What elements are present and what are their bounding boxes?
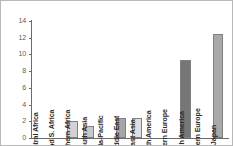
y-axis-tick-label: 4: [22, 100, 26, 109]
bar-slot[interactable]: South Asia: [81, 21, 97, 138]
bar-slot[interactable]: North America: [178, 21, 194, 138]
bar-category-label: Northern Africa: [64, 110, 72, 146]
bar-series: Central AfricaE. and S. AfricaNorthern A…: [32, 21, 226, 138]
bar-chart-figure: 02468101214 Central AfricaE. and S. Afri…: [0, 0, 233, 146]
bar-slot[interactable]: Middle East: [113, 21, 129, 138]
bar-category-label: Western Europe: [194, 108, 202, 146]
y-axis-tick-label: 0: [22, 133, 26, 142]
y-axis-tick-label: 10: [19, 49, 26, 58]
bar-slot[interactable]: Japan: [210, 21, 226, 138]
bar-slot[interactable]: East Asia: [129, 21, 145, 138]
bar-category-label: East Asia: [129, 119, 137, 146]
bar-slot[interactable]: South America: [145, 21, 161, 138]
bar-category-label: Central Africa: [32, 112, 40, 146]
bar-category-label: North America: [178, 111, 186, 146]
bar-category-label: Asia-Pacific: [97, 115, 105, 146]
bar-category-label: South Asia: [81, 117, 89, 146]
bar-slot[interactable]: E. and S. Africa: [48, 21, 64, 138]
bar-slot[interactable]: Eastern Europe: [161, 21, 177, 138]
y-axis-tick-label: 14: [19, 16, 26, 25]
bar-category-label: Eastern Europe: [161, 109, 169, 146]
bar-slot[interactable]: Asia-Pacific: [97, 21, 113, 138]
y-axis-tick-label: 2: [22, 116, 26, 125]
bar[interactable]: [213, 34, 223, 138]
bar-slot[interactable]: Western Europe: [194, 21, 210, 138]
bar-slot[interactable]: Northern Africa: [64, 21, 80, 138]
bar-slot[interactable]: Central Africa: [32, 21, 48, 138]
y-axis-tick-label: 6: [22, 83, 26, 92]
bar-category-label: E. and S. Africa: [48, 110, 56, 146]
y-axis-tick-label: 12: [19, 33, 26, 42]
bar-category-label: South America: [145, 110, 153, 146]
bar-category-label: Middle East: [113, 116, 121, 146]
bar-category-label: Japan: [210, 125, 218, 145]
y-axis-tick-label: 8: [22, 66, 26, 75]
